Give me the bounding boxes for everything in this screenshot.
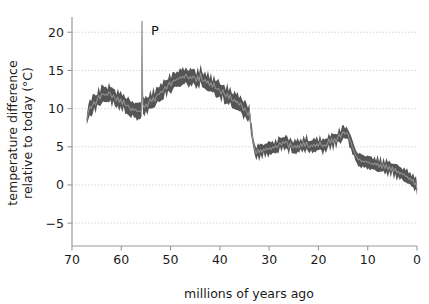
x-axis-label: millions of years ago	[184, 286, 314, 301]
chart-figure: 706050403020100 20151050−5 P millions of…	[0, 0, 429, 304]
y-tick-label: 15	[48, 63, 64, 78]
x-tick-label: 70	[64, 252, 80, 267]
annotation-label-p: P	[151, 23, 159, 38]
x-tick-label: 20	[310, 252, 326, 267]
uncertainty-band	[87, 14, 417, 196]
y-tick-label: 0	[56, 177, 64, 192]
y-axis-tick-labels: 20151050−5	[46, 25, 64, 231]
x-tick-label: 50	[163, 252, 179, 267]
x-axis-ticks	[72, 246, 417, 251]
y-tick-label: 5	[56, 139, 64, 154]
x-tick-label: 10	[360, 252, 376, 267]
paleotemperature-line-chart: 706050403020100 20151050−5 P millions of…	[0, 0, 429, 304]
y-tick-label: 10	[48, 101, 64, 116]
x-axis-tick-labels: 706050403020100	[64, 252, 421, 267]
y-axis-label-line1: temperature difference	[5, 60, 20, 206]
axis-spines	[72, 17, 417, 246]
y-axis-ticks	[68, 32, 73, 223]
x-tick-label: 40	[212, 252, 228, 267]
gridlines	[72, 32, 417, 223]
x-tick-label: 0	[413, 252, 421, 267]
x-tick-label: 30	[261, 252, 277, 267]
y-tick-label: 20	[48, 25, 64, 40]
y-tick-label: −5	[46, 216, 64, 231]
y-axis-label-line2: relative to today (°C)	[20, 67, 35, 199]
chart-annotations: P	[151, 23, 159, 38]
x-tick-label: 60	[113, 252, 129, 267]
